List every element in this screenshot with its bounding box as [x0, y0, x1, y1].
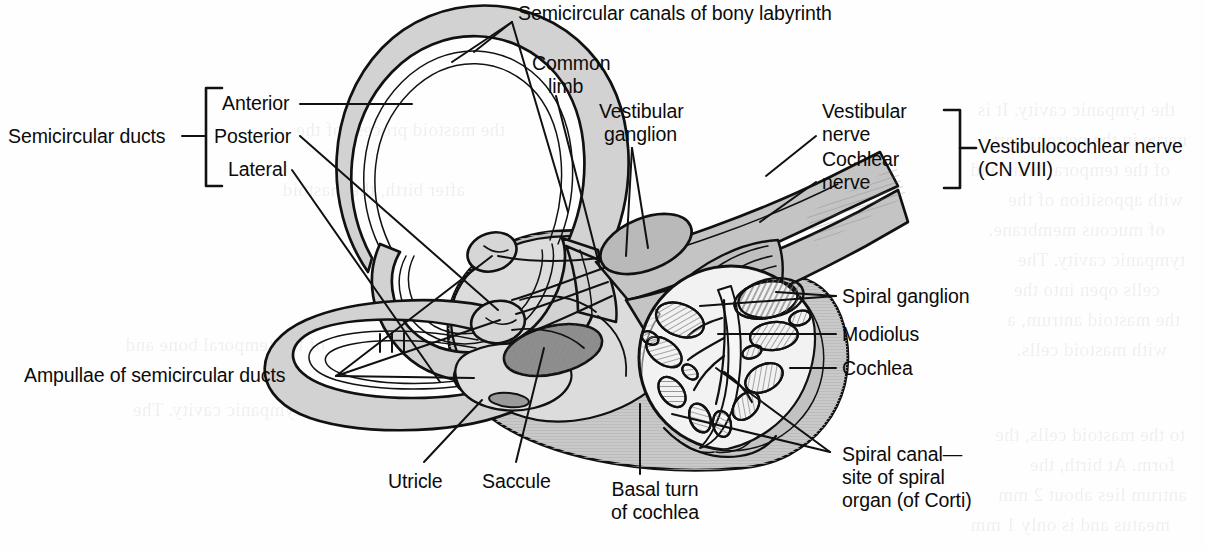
label-vestibular-ganglion-line2: ganglion [604, 123, 677, 146]
label-semicircular-canals-of-bony-labyrinth: Semicircular canals of bony labyrinth [518, 2, 832, 25]
label-utricle: Utricle [388, 470, 443, 493]
label-saccule: Saccule [482, 470, 551, 493]
label-modiolus: Modiolus [842, 323, 919, 346]
label-posterior: Posterior [214, 125, 291, 148]
label-vestibulocochlear-nerve-line2: (CN VIII) [978, 158, 1053, 181]
label-cochlear-nerve-line2: nerve [822, 171, 870, 194]
label-semicircular-ducts: Semicircular ducts [8, 125, 166, 148]
label-vestibular-nerve-line1: Vestibular [822, 100, 907, 123]
label-basal-turn-line2: of cochlea [590, 501, 720, 524]
label-vestibular-ganglion-line1: Vestibular [599, 100, 684, 123]
label-ampullae-of-semicircular-ducts: Ampullae of semicircular ducts [24, 364, 285, 387]
label-spiral-canal-line2: site of spiral [842, 466, 945, 489]
label-spiral-canal-line1: Spiral canal— [842, 443, 962, 466]
label-cochlear-nerve-line1: Cochlear [822, 148, 899, 171]
label-vestibular-nerve-line2: nerve [822, 123, 870, 146]
figure-page: the tympanic cavity. It is nerve in the … [0, 0, 1205, 551]
label-spiral-canal-line3: organ (of Corti) [842, 489, 972, 512]
label-spiral-ganglion: Spiral ganglion [842, 285, 970, 308]
label-common-limb-line2: limb [548, 75, 583, 98]
label-vestibulocochlear-nerve-line1: Vestibulocochlear nerve [978, 135, 1183, 158]
label-anterior: Anterior [222, 92, 289, 115]
inner-ear-illustration [0, 0, 1205, 551]
label-cochlea: Cochlea [842, 357, 913, 380]
label-common-limb-line1: Common [532, 52, 611, 75]
label-basal-turn-line1: Basal turn [590, 478, 720, 501]
label-lateral: Lateral [228, 158, 287, 181]
bracket-vestibulocochlear-nerve [944, 110, 976, 188]
